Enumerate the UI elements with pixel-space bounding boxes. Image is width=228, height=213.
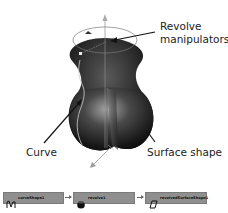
revolve-manipulators-label: Revolve manipulators — [160, 20, 228, 46]
label-line: Revolve — [160, 20, 228, 33]
connection-arrow — [137, 197, 143, 198]
node-revolve1[interactable]: revolve1 — [73, 192, 135, 204]
label-line: manipulators — [160, 33, 228, 46]
curve-label: Curve — [26, 146, 57, 159]
node-label: curveShape1 — [18, 196, 44, 200]
revolve-scene: Revolve manipulators Curve Surface shape — [0, 0, 228, 185]
curve-icon — [6, 194, 16, 203]
node-revolvedsurfaceshape1[interactable]: revolvedSurfaceShape1 — [145, 192, 207, 204]
connection-arrow — [65, 197, 71, 198]
revolve-icon — [76, 194, 86, 203]
node-label: revolvedSurfaceShape1 — [160, 196, 208, 200]
surface-icon — [148, 194, 158, 203]
surface-shape-label: Surface shape — [147, 146, 222, 159]
node-graph: curveShape1 revolve1 revolvedSurfaceShap… — [0, 188, 228, 208]
node-curveshape1[interactable]: curveShape1 — [3, 192, 64, 204]
node-label: revolve1 — [88, 196, 106, 200]
